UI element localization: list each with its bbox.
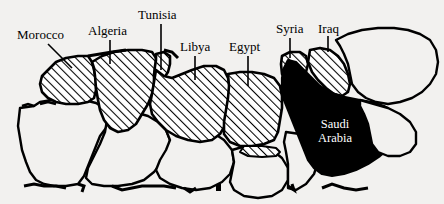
map-label-iraq: Iraq: [318, 22, 339, 35]
map-label-libya: Libya: [180, 40, 210, 53]
map-label-morocco: Morocco: [17, 28, 64, 41]
map-label-algeria: Algeria: [88, 24, 127, 37]
map-label-syria: Syria: [276, 22, 303, 35]
map-label-tunisia: Tunisia: [138, 8, 177, 21]
map-label-saudi-arabia-line1: Saudi: [321, 117, 349, 131]
map-label-egypt: Egypt: [229, 40, 260, 53]
country-shape-egypt-sliver: [240, 146, 280, 157]
map-figure: Morocco Algeria Tunisia Libya Egypt Syri…: [0, 0, 444, 204]
map-label-saudi-arabia-line2: Arabia: [318, 131, 352, 145]
country-shape-egypt: [224, 72, 282, 146]
map-graphic: [0, 0, 444, 204]
map-label-saudi-arabia: Saudi Arabia: [318, 117, 352, 145]
